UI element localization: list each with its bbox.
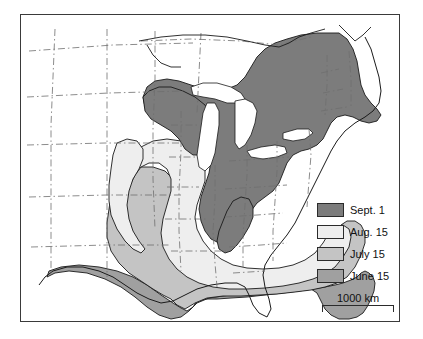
- map-legend: Sept. 1 Aug. 15 July 15 June 15: [317, 200, 403, 288]
- legend-item-sept-1: Sept. 1: [317, 200, 403, 220]
- scalebar-tick-right: [393, 305, 394, 312]
- legend-label-aug-15: Aug. 15: [350, 225, 388, 239]
- legend-swatch-july-15: [317, 247, 344, 261]
- legend-item-aug-15: Aug. 15: [317, 222, 403, 242]
- legend-label-sept-1: Sept. 1: [350, 203, 385, 217]
- legend-item-july-15: July 15: [317, 244, 403, 264]
- legend-label-july-15: July 15: [350, 247, 385, 261]
- legend-swatch-aug-15: [317, 225, 344, 239]
- legend-label-june-15: June 15: [350, 269, 389, 283]
- legend-item-june-15: June 15: [317, 266, 403, 286]
- legend-swatch-sept-1: [317, 203, 344, 217]
- map-scalebar: 1000 km: [322, 292, 394, 312]
- map-figure: Sept. 1 Aug. 15 July 15 June 15 1000 km: [0, 0, 423, 339]
- scalebar-label: 1000 km: [322, 292, 394, 304]
- scalebar-rule: [322, 305, 394, 312]
- scalebar-line: [322, 305, 394, 306]
- scalebar-tick-left: [322, 305, 323, 312]
- legend-swatch-june-15: [317, 269, 344, 283]
